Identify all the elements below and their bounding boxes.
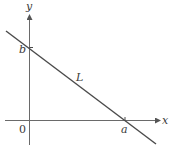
coordinate-diagram: y x 0 b a L bbox=[0, 0, 173, 156]
x-intercept-label: a bbox=[121, 123, 128, 136]
y-axis-label: y bbox=[25, 0, 33, 13]
line-label: L bbox=[75, 71, 83, 84]
y-intercept-label: b bbox=[19, 43, 26, 56]
x-axis-label: x bbox=[162, 114, 169, 127]
line-L bbox=[6, 31, 156, 144]
origin-label: 0 bbox=[19, 123, 26, 136]
diagram-canvas: y x 0 b a L bbox=[0, 0, 173, 156]
